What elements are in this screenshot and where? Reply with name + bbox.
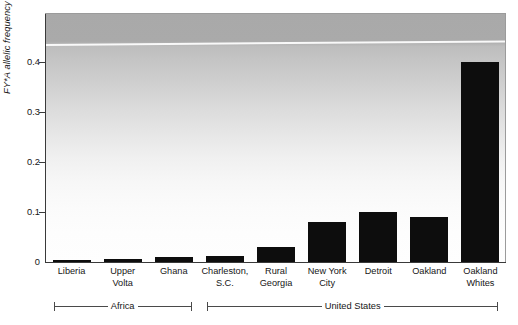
y-tick-mark: [39, 162, 45, 163]
y-tick-mark: [39, 212, 45, 213]
x-tick-label-line: S.C.: [199, 278, 250, 290]
bar: [206, 256, 244, 262]
x-tick-label-line: Whites: [455, 278, 506, 290]
x-tick-label-line: Volta: [97, 278, 148, 290]
group-bracket-cap: [497, 302, 498, 311]
group-bracket-label: United States: [322, 300, 384, 313]
x-tick-label: OaklandWhites: [455, 266, 506, 289]
x-tick-label-line: New York: [302, 266, 353, 278]
bar: [257, 247, 295, 262]
x-tick-label: Oakland: [404, 266, 455, 278]
x-tick-label-line: Liberia: [46, 266, 97, 278]
group-bracket: Africa: [54, 300, 192, 314]
y-tick-label: 0: [14, 257, 40, 267]
x-tick-label: Detroit: [353, 266, 404, 278]
x-tick-label-line: Detroit: [353, 266, 404, 278]
scan-artifact-line: [46, 40, 506, 45]
y-tick-mark: [39, 62, 45, 63]
group-bracket-cap: [54, 302, 55, 311]
x-tick-label-line: Rural: [250, 266, 301, 278]
x-tick-label: Liberia: [46, 266, 97, 278]
x-tick-label: New YorkCity: [302, 266, 353, 289]
group-bracket-cap: [207, 302, 208, 311]
y-axis-line: [45, 14, 46, 263]
x-tick-label: Ghana: [148, 266, 199, 278]
bar: [461, 62, 499, 262]
group-bracket: United States: [207, 300, 499, 314]
bar: [155, 257, 193, 262]
x-tick-label-line: Charleston,: [199, 266, 250, 278]
bar: [53, 260, 91, 262]
x-tick-label: UpperVolta: [97, 266, 148, 289]
y-tick-label: 0.2: [14, 157, 40, 167]
bar: [308, 222, 346, 262]
bar: [104, 259, 142, 262]
x-tick-label-line: Oakland: [404, 266, 455, 278]
y-tick-label: 0.4: [14, 57, 40, 67]
x-tick-label-line: City: [302, 278, 353, 290]
group-bracket-label: Africa: [108, 300, 138, 313]
x-tick-label-line: Upper: [97, 266, 148, 278]
y-tick-label-group: 0.40.30.20.10: [8, 0, 40, 325]
y-tick-label: 0.1: [14, 207, 40, 217]
x-tick-label: Charleston,S.C.: [199, 266, 250, 289]
bar: [410, 217, 448, 262]
x-tick-label: RuralGeorgia: [250, 266, 301, 289]
group-bracket-cap: [191, 302, 192, 311]
chart-figure: FY*A allelic frequency 0.40.30.20.10 Lib…: [0, 0, 518, 325]
x-tick-label-line: Ghana: [148, 266, 199, 278]
y-tick-mark: [39, 112, 45, 113]
x-tick-label-line: Oakland: [455, 266, 506, 278]
x-tick-label-line: Georgia: [250, 278, 301, 290]
y-tick-label: 0.3: [14, 107, 40, 117]
x-axis-line: [45, 262, 506, 263]
bar: [359, 212, 397, 262]
